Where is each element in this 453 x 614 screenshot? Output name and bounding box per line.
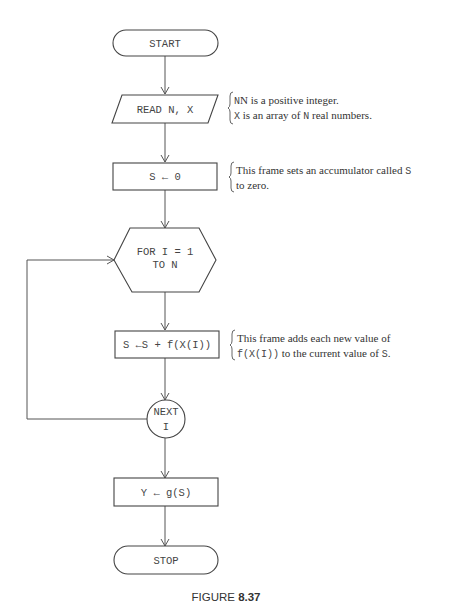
annotation-init-line2: to zero. bbox=[236, 179, 269, 191]
brace-icon bbox=[228, 92, 233, 124]
stop-label: STOP bbox=[153, 555, 178, 567]
accumulate-process-box: S ←S + f(X(I)) bbox=[115, 331, 219, 358]
read-input-box: READ N, X bbox=[112, 95, 218, 123]
brace-icon bbox=[230, 330, 235, 360]
brace-icon bbox=[229, 162, 234, 192]
result-label: Y ← g(S) bbox=[141, 487, 191, 499]
stop-terminal: STOP bbox=[114, 546, 218, 574]
annotation-read-line2: X is an array of N real numbers. bbox=[234, 109, 372, 122]
init-label: S ← 0 bbox=[149, 171, 181, 183]
flowchart-diagram: START READ N, X S ← 0 FOR I = 1 TO N S ←… bbox=[0, 0, 453, 614]
init-process-box: S ← 0 bbox=[113, 163, 217, 190]
start-label: START bbox=[149, 38, 181, 50]
annotation-read-line1: NN is a positive integer. bbox=[234, 94, 339, 107]
next-label-line2: I bbox=[163, 421, 169, 433]
annotation-accumulate: This frame adds each new value of f(X(I)… bbox=[230, 330, 391, 360]
annotation-init: This frame sets an accumulator called S … bbox=[229, 162, 411, 192]
figure-caption: FIGURE 8.37 bbox=[191, 591, 260, 603]
next-connector-circle: NEXT I bbox=[147, 400, 185, 438]
result-process-box: Y ← g(S) bbox=[114, 478, 218, 506]
start-terminal: START bbox=[113, 30, 218, 56]
loop-label-line1: FOR I = 1 bbox=[137, 246, 194, 258]
annotation-init-line1: This frame sets an accumulator called S bbox=[236, 164, 411, 177]
annotation-accumulate-line2: f(X(I)) to the current value of S. bbox=[237, 347, 391, 360]
connectors bbox=[27, 56, 169, 546]
next-label-line1: NEXT bbox=[153, 406, 178, 418]
annotation-read: NN is a positive integer. X is an array … bbox=[228, 92, 372, 124]
accumulate-label: S ←S + f(X(I)) bbox=[123, 339, 211, 351]
loop-preparation-hexagon: FOR I = 1 TO N bbox=[114, 228, 216, 292]
annotation-accumulate-line1: This frame adds each new value of bbox=[237, 332, 391, 344]
read-label: READ N, X bbox=[137, 104, 194, 116]
loop-label-line2: TO N bbox=[152, 259, 177, 271]
